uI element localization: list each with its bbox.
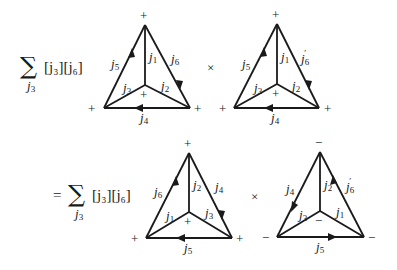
label-bottom-edge: j5 [314, 239, 325, 255]
sign-right: − [368, 230, 375, 245]
label-center-right: j2 [290, 78, 300, 94]
times-symbol: × [251, 189, 258, 204]
arrow-up-icon [260, 47, 267, 57]
label-right-edge: j6′ [299, 48, 310, 67]
label-center-right: j1 [334, 204, 344, 220]
diagram-4: − − − − j4 j6′ j2 j3 j1 j5 [262, 135, 375, 255]
label-bottom-edge: j4 [138, 110, 149, 126]
label-left-edge: j5 [240, 56, 251, 72]
label-center-vertical: j1 [147, 49, 157, 65]
dimension-factor: [j₃][j₆] [92, 187, 131, 203]
label-left-edge: j6 [152, 184, 163, 200]
label-center-left: j3 [252, 80, 263, 96]
sign-top: + [140, 8, 147, 23]
sum-index: j3 [25, 78, 36, 94]
label-bottom-edge: j4 [269, 110, 280, 126]
label-center-left: j3 [121, 80, 132, 96]
equals-sign: = [53, 187, 61, 203]
sum-symbol: ∑ [68, 180, 85, 208]
label-right-edge: j6 [169, 51, 180, 67]
sign-left: − [262, 230, 269, 245]
sum-symbol: ∑ [20, 52, 37, 80]
sign-right: + [194, 101, 201, 116]
recoupling-identity-diagram: ∑ j3 [j₃][j₆] × + + + + j5 j6 j1 j3 j2 j… [0, 0, 397, 270]
sign-left: + [88, 101, 95, 116]
diagram-1: + + + + j5 j6 j1 j3 j2 j4 [88, 8, 201, 126]
label-center-left: j1 [164, 208, 174, 224]
sum-index: j3 [73, 206, 84, 222]
row1-formula: ∑ j3 [j₃][j₆] × [20, 52, 214, 94]
sign-right: + [236, 231, 243, 246]
sign-center: + [272, 86, 279, 101]
label-right-edge: j6′ [344, 176, 355, 195]
label-right-edge: j4 [213, 179, 224, 195]
label-center-left: j3 [297, 207, 308, 223]
label-center-vertical: j1 [279, 49, 289, 65]
sign-top: + [184, 136, 191, 151]
arrow-up-icon [128, 48, 135, 58]
sign-center: + [184, 214, 191, 229]
label-center-right: j3 [203, 205, 214, 221]
label-left-edge: j4 [284, 181, 295, 197]
sign-right: + [324, 101, 331, 116]
times-symbol: × [207, 60, 214, 75]
label-center-right: j2 [159, 78, 169, 94]
sign-left: + [219, 101, 226, 116]
label-left-edge: j5 [109, 56, 120, 72]
label-center-vertical: j2 [322, 177, 332, 193]
sign-top: − [315, 135, 322, 150]
label-bottom-edge: j5 [182, 240, 193, 256]
arrow-down-icon [305, 80, 312, 90]
diagram-3: + + + + j6 j4 j2 j1 j3 j5 [131, 136, 243, 256]
sign-center: − [315, 213, 322, 228]
dimension-factor: [j₃][j₆] [44, 59, 83, 75]
arrow-down-icon [218, 210, 225, 220]
arrow-right-icon [328, 233, 337, 241]
diagram-2: + + + + j5 j6′ j1 j3 j2 j4 [219, 7, 331, 126]
sign-center: + [140, 87, 147, 102]
arrow-up-icon [172, 176, 179, 186]
sign-top: + [272, 7, 279, 22]
label-center-vertical: j2 [191, 177, 201, 193]
sign-left: + [131, 231, 138, 246]
